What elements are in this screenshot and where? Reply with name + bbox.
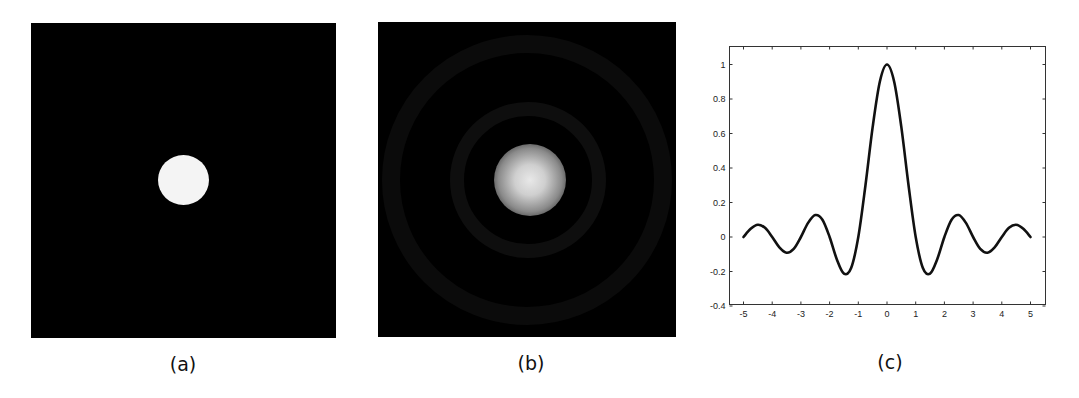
y-tick-label: 0.6 (713, 129, 726, 139)
x-tick-label: -5 (739, 309, 747, 319)
y-tick-label: 0.4 (713, 163, 726, 173)
y-tick-label: 0.8 (713, 94, 726, 104)
caption-c: (c) (877, 351, 902, 373)
x-tick-label: -3 (797, 309, 805, 319)
x-tick-label: 4 (999, 309, 1004, 319)
y-tick-label: -0.4 (710, 301, 726, 311)
x-tick-label: 5 (1028, 309, 1033, 319)
x-tick-label: -2 (826, 309, 834, 319)
plot-frame (730, 47, 1046, 305)
x-tick-label: 2 (942, 309, 947, 319)
y-tick-label: 1 (720, 60, 725, 70)
x-tick-label: -1 (854, 309, 862, 319)
x-tick-label: 0 (884, 309, 889, 319)
x-tick-label: -4 (768, 309, 776, 319)
x-tick-label: 1 (913, 309, 918, 319)
sinc-line-chart: -5-4-3-2-1012345-0.4-0.200.20.40.60.81 (0, 0, 1079, 398)
y-tick-label: -0.2 (710, 267, 726, 277)
y-tick-label: 0 (720, 232, 725, 242)
y-tick-label: 0.2 (713, 198, 726, 208)
x-tick-label: 3 (971, 309, 976, 319)
